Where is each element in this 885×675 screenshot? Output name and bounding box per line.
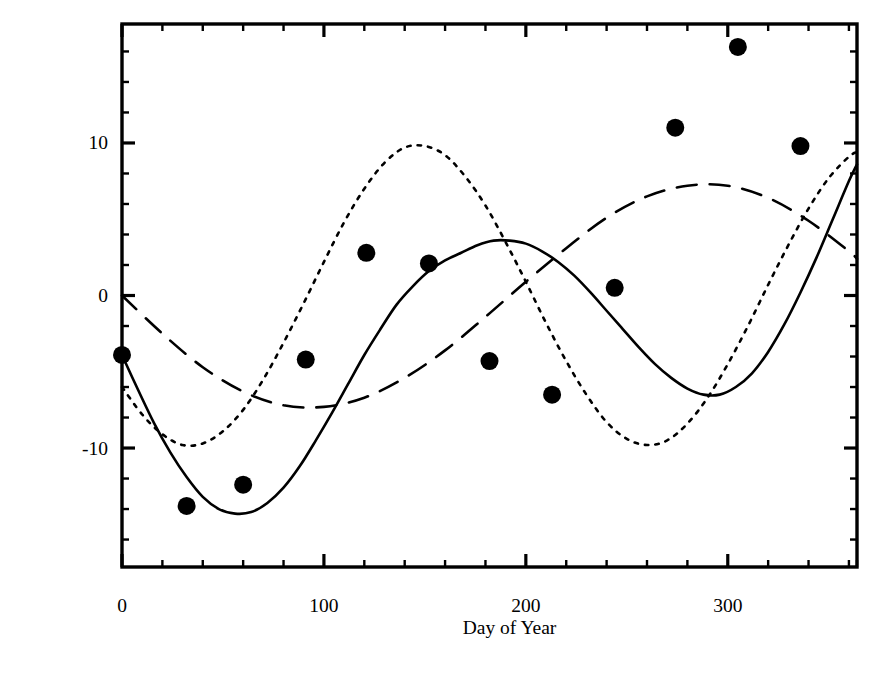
data-point-marker [606,279,624,297]
data-point-marker [729,38,747,56]
y-tick-label: 10 [89,132,109,153]
data-point-marker [543,386,561,404]
data-point-marker [178,497,196,515]
axes-frame [122,24,857,567]
equation-of-time-figure: 0100200300-10010 Apparent – Mean Solar T… [0,0,885,675]
curves-layer [122,145,857,514]
data-point-marker [357,244,375,262]
data-point-marker [791,137,809,155]
x-tick-label: 100 [309,595,338,616]
y-axis-label: Apparent – Mean Solar Time (min) [0,0,46,675]
data-point-marker [113,346,131,364]
data-point-marker [297,351,315,369]
y-tick-label: -10 [82,438,108,459]
y-tick-label: 0 [98,285,108,306]
data-point-marker [481,352,499,370]
plot-svg: 0100200300-10010 [0,0,885,675]
data-point-markers [113,38,809,515]
series-curve-solid [122,164,857,514]
data-point-marker [666,119,684,137]
data-point-marker [420,254,438,272]
x-axis-label: Day of Year [0,617,885,639]
x-tick-label: 0 [117,595,127,616]
series-curve-dashed [122,184,857,407]
x-axis-label-text: Day of Year [463,617,557,639]
x-tick-label: 300 [713,595,742,616]
data-point-marker [234,476,252,494]
x-tick-label: 200 [511,595,540,616]
